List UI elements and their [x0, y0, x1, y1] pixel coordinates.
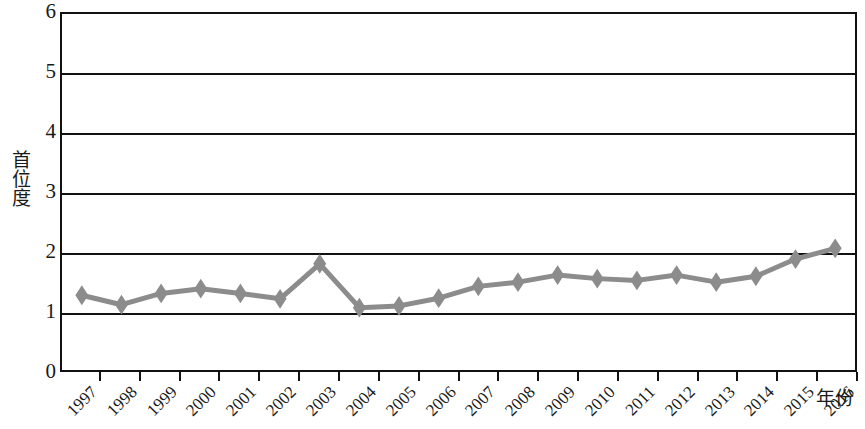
y-tick-label-4: 4: [30, 121, 56, 142]
x-tick-2: [139, 372, 141, 381]
x-tick-16: [697, 372, 699, 381]
y-tick-label-5: 5: [30, 61, 56, 82]
y-axis-tick-labels: 6543210: [28, 0, 56, 429]
series-line: [82, 248, 835, 307]
x-tick-12: [537, 372, 539, 381]
data-point-2013: [710, 272, 723, 292]
x-tick-11: [497, 372, 499, 381]
x-tick-9: [418, 372, 420, 381]
data-point-2015: [789, 249, 802, 269]
y-tick-label-2: 2: [30, 241, 56, 262]
x-tick-15: [657, 372, 659, 381]
x-axis-ticks: [60, 372, 857, 381]
data-point-1998: [115, 295, 128, 315]
x-tick-13: [577, 372, 579, 381]
x-axis-title: 年份: [816, 388, 854, 409]
data-series-首位度: [62, 14, 855, 370]
x-tick-14: [617, 372, 619, 381]
data-point-2008: [512, 272, 525, 292]
data-point-2011: [630, 271, 643, 291]
x-tick-10: [458, 372, 460, 381]
y-axis-title: 首位度: [4, 150, 30, 207]
x-tick-19: [816, 372, 818, 381]
x-tick-17: [736, 372, 738, 381]
data-point-2000: [194, 279, 207, 299]
x-tick-3: [179, 372, 181, 381]
line-chart: 首位度 6543210 1997199819992000200120022003…: [0, 0, 865, 429]
x-axis-tick-labels: 1997199819992000200120022003200420052006…: [60, 381, 857, 429]
x-tick-20: [856, 372, 858, 381]
x-tick-6: [298, 372, 300, 381]
x-tick-18: [776, 372, 778, 381]
y-tick-label-6: 6: [30, 1, 56, 22]
plot-area: [60, 12, 857, 372]
y-tick-label-1: 1: [30, 301, 56, 322]
x-tick-7: [338, 372, 340, 381]
plot-inner: [62, 14, 855, 370]
x-tick-1: [99, 372, 101, 381]
data-point-2014: [749, 266, 762, 286]
data-point-2012: [670, 265, 683, 285]
data-point-2010: [591, 269, 604, 289]
y-tick-label-0: 0: [30, 361, 56, 382]
x-tick-4: [218, 372, 220, 381]
data-point-2007: [472, 276, 485, 296]
data-point-2005: [393, 296, 406, 316]
data-point-2016: [829, 238, 842, 258]
data-point-2006: [432, 288, 445, 308]
data-point-2009: [551, 265, 564, 285]
data-point-2001: [234, 284, 247, 304]
x-tick-8: [378, 372, 380, 381]
x-tick-5: [258, 372, 260, 381]
data-point-1997: [75, 285, 88, 305]
y-tick-label-3: 3: [30, 181, 56, 202]
data-point-1999: [155, 284, 168, 304]
